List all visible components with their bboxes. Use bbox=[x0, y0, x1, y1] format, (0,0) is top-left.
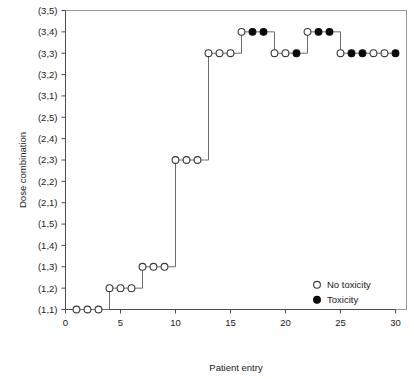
point-no-toxicity bbox=[106, 285, 113, 292]
point-no-toxicity bbox=[304, 28, 311, 35]
point-no-toxicity bbox=[194, 157, 201, 164]
y-tick-label: (1,5) bbox=[38, 218, 58, 229]
y-tick-label: (1,4) bbox=[38, 240, 58, 251]
point-no-toxicity bbox=[139, 263, 146, 270]
point-toxicity bbox=[293, 50, 300, 57]
y-tick-label: (3,4) bbox=[38, 26, 58, 37]
y-tick-label: (1,2) bbox=[38, 283, 58, 294]
x-tick-label: 0 bbox=[63, 317, 68, 328]
y-tick-label: (1,3) bbox=[38, 261, 58, 272]
point-no-toxicity bbox=[161, 263, 168, 270]
point-no-toxicity bbox=[117, 285, 124, 292]
y-tick-label: (3,2) bbox=[38, 69, 58, 80]
point-no-toxicity bbox=[172, 157, 179, 164]
point-no-toxicity bbox=[128, 285, 135, 292]
point-toxicity bbox=[260, 28, 267, 35]
dose-escalation-chart: (1,1)(1,2)(1,3)(1,4)(1,5)(2,1)(2,2)(2,3)… bbox=[0, 0, 414, 379]
y-tick-label: (3,3) bbox=[38, 48, 58, 59]
y-tick-label: (2,1) bbox=[38, 197, 58, 208]
legend-marker-no-toxicity bbox=[314, 281, 321, 288]
legend-label: No toxicity bbox=[327, 279, 371, 290]
point-no-toxicity bbox=[73, 306, 80, 313]
point-toxicity bbox=[315, 28, 322, 35]
point-no-toxicity bbox=[205, 50, 212, 57]
point-toxicity bbox=[348, 50, 355, 57]
y-tick-label: (2,5) bbox=[38, 112, 58, 123]
x-tick-label: 15 bbox=[225, 317, 236, 328]
point-no-toxicity bbox=[370, 50, 377, 57]
legend-label: Toxicity bbox=[327, 294, 358, 305]
x-tick-label: 25 bbox=[335, 317, 346, 328]
x-tick-label: 10 bbox=[170, 317, 181, 328]
point-no-toxicity bbox=[381, 50, 388, 57]
point-no-toxicity bbox=[95, 306, 102, 313]
x-tick-label: 20 bbox=[280, 317, 291, 328]
y-tick-label: (2,2) bbox=[38, 176, 58, 187]
point-no-toxicity bbox=[183, 157, 190, 164]
y-tick-label: (3,5) bbox=[38, 5, 58, 16]
point-toxicity bbox=[359, 50, 366, 57]
point-toxicity bbox=[326, 28, 333, 35]
y-tick-label: (2,3) bbox=[38, 154, 58, 165]
point-toxicity bbox=[249, 28, 256, 35]
point-no-toxicity bbox=[238, 28, 245, 35]
point-no-toxicity bbox=[282, 50, 289, 57]
x-tick-label: 5 bbox=[118, 317, 123, 328]
y-tick-label: (2,4) bbox=[38, 133, 58, 144]
x-axis-title: Patient entry bbox=[209, 362, 263, 373]
x-tick-label: 30 bbox=[390, 317, 401, 328]
point-no-toxicity bbox=[271, 50, 278, 57]
y-axis-title: Dose combination bbox=[17, 132, 28, 208]
point-no-toxicity bbox=[337, 50, 344, 57]
chart-canvas: (1,1)(1,2)(1,3)(1,4)(1,5)(2,1)(2,2)(2,3)… bbox=[0, 0, 414, 379]
point-no-toxicity bbox=[84, 306, 91, 313]
point-no-toxicity bbox=[227, 50, 234, 57]
y-tick-label: (1,1) bbox=[38, 304, 58, 315]
point-no-toxicity bbox=[216, 50, 223, 57]
point-toxicity bbox=[392, 50, 399, 57]
point-no-toxicity bbox=[150, 263, 157, 270]
y-tick-label: (3,1) bbox=[38, 90, 58, 101]
legend-marker-toxicity bbox=[314, 296, 321, 303]
